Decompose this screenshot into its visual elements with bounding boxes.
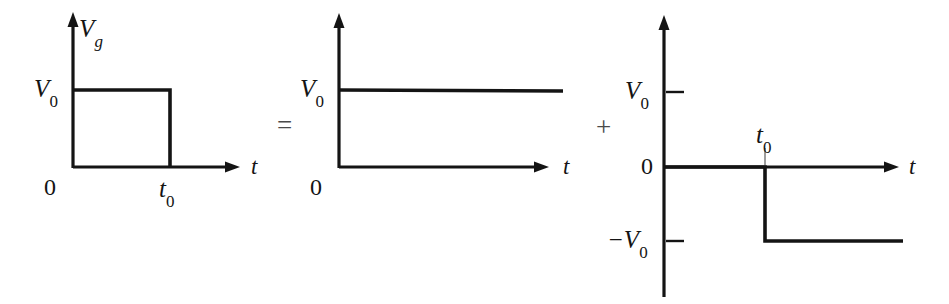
step-up-origin-label: 0: [310, 175, 322, 199]
step-down-y-axis: [659, 15, 670, 297]
step-down-origin-label: 0: [641, 154, 653, 178]
equals-operator: =: [277, 112, 292, 139]
step-up-y-tick-label: V0: [300, 76, 324, 106]
pulse-x-tick-label: t0: [159, 176, 174, 206]
plus-operator: +: [596, 114, 611, 141]
pulse-x-axis: [73, 162, 240, 173]
pulse-waveform: [73, 90, 170, 167]
step-down-x-tick-label: t0: [756, 122, 771, 152]
step-down-y-tick-positive-label: V0: [625, 78, 649, 108]
pulse-y-tick-label: V0: [34, 76, 58, 106]
step-up-x-axis-label: t: [563, 155, 569, 178]
step-up-waveform: [339, 90, 563, 91]
step-up-x-axis: [339, 162, 549, 173]
figure-canvas: [0, 0, 949, 304]
step-down-waveform: [664, 167, 903, 241]
panel-step-down: [659, 15, 904, 297]
pulse-x-axis-label: t: [251, 155, 257, 178]
pulse-y-axis-label: Vg: [79, 16, 103, 46]
figure-root: Vg V0 0 t0 t = V0 0 t + V0 0 −V0 t0 t: [0, 0, 949, 304]
step-down-y-tick-negative-label: −V0: [607, 227, 648, 257]
step-down-x-axis-label: t: [909, 155, 915, 178]
panel-step-up: [334, 13, 564, 173]
pulse-origin-label: 0: [44, 175, 56, 199]
